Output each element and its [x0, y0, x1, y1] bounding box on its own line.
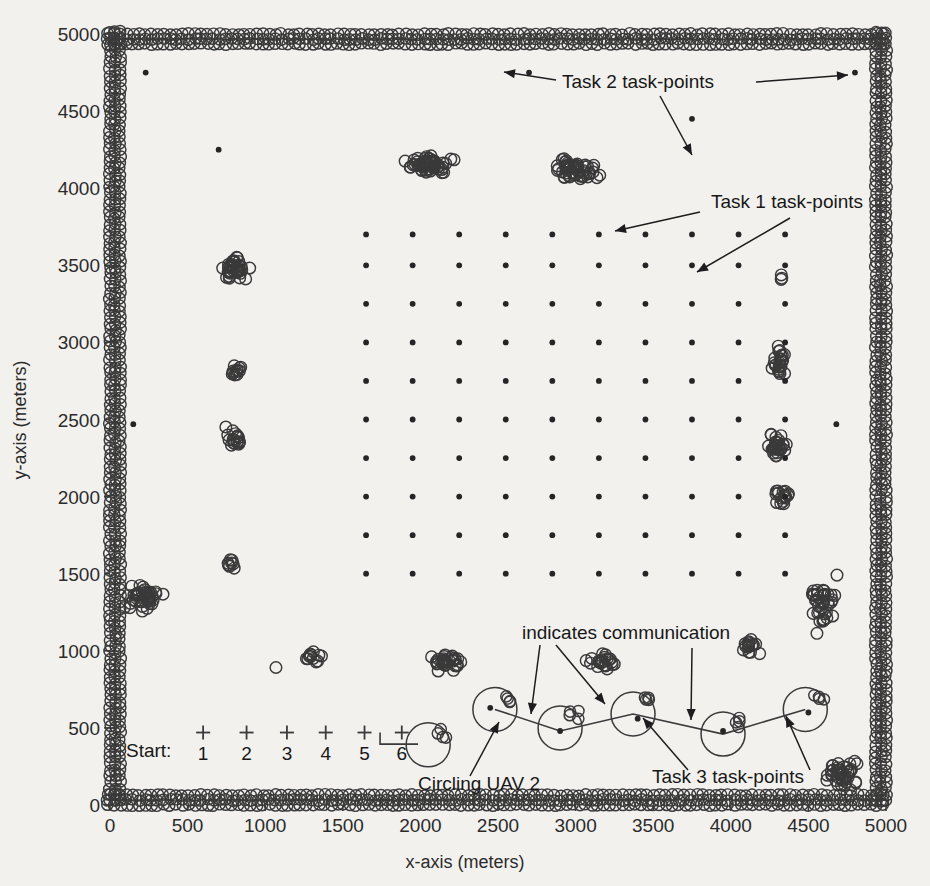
x-tick-label: 5000: [865, 815, 907, 836]
task1-point: [456, 571, 462, 577]
task2-point: [833, 421, 839, 427]
task1-point: [363, 301, 369, 307]
x-tick-label: 500: [172, 815, 204, 836]
x-axis-title: x-axis (meters): [405, 852, 524, 872]
task1-point: [549, 378, 555, 384]
task1-point: [596, 378, 602, 384]
x-tick-label: 1500: [322, 815, 364, 836]
task1-point: [736, 340, 742, 346]
task1-point: [549, 340, 555, 346]
task1-point: [456, 340, 462, 346]
task1-point: [456, 262, 462, 268]
task1-point: [410, 232, 416, 238]
x-tick-label: 3000: [554, 815, 596, 836]
scatter-plot-svg: 0500100015002000250030003500400045005000…: [0, 0, 930, 886]
task1-point: [736, 571, 742, 577]
task1-point: [363, 494, 369, 500]
start-number-label: 3: [282, 743, 293, 764]
y-tick-label: 1000: [58, 641, 100, 662]
task1-point: [782, 494, 788, 500]
task1-point: [782, 262, 788, 268]
start-number-label: 4: [320, 743, 331, 764]
y-axis-title: y-axis (meters): [10, 360, 30, 479]
task1-point: [363, 340, 369, 346]
task1-point: [596, 301, 602, 307]
task1-point: [549, 494, 555, 500]
task3-annotation-label: Task 3 task-points: [652, 766, 804, 787]
start-number-label: 1: [198, 743, 209, 764]
task1-point: [410, 455, 416, 461]
y-tick-label: 2500: [58, 410, 100, 431]
task1-point: [782, 340, 788, 346]
task1-point: [503, 340, 509, 346]
task3-point: [720, 728, 726, 734]
task1-point: [410, 571, 416, 577]
x-tick-label: 2500: [477, 815, 519, 836]
circling-uav-annotation-label: Circling UAV 2: [418, 773, 540, 794]
task1-point: [643, 340, 649, 346]
task1-point: [456, 455, 462, 461]
task1-point: [596, 455, 602, 461]
task1-point: [596, 532, 602, 538]
task1-point: [736, 455, 742, 461]
task1-point: [782, 417, 788, 423]
task1-point: [736, 532, 742, 538]
task1-point: [782, 301, 788, 307]
task1-point: [689, 494, 695, 500]
task1-point: [503, 455, 509, 461]
y-tick-label: 0: [89, 795, 100, 816]
task1-point: [503, 262, 509, 268]
task1-point: [643, 417, 649, 423]
task1-point: [549, 455, 555, 461]
task1-point: [782, 532, 788, 538]
task1-point: [410, 417, 416, 423]
y-tick-label: 4000: [58, 178, 100, 199]
task1-point: [363, 378, 369, 384]
task1-point: [782, 571, 788, 577]
task1-point: [503, 571, 509, 577]
y-tick-label: 3500: [58, 255, 100, 276]
y-tick-label: 3000: [58, 332, 100, 353]
task1-point: [689, 301, 695, 307]
task1-point: [503, 232, 509, 238]
y-tick-label: 5000: [58, 24, 100, 45]
task2-point: [689, 116, 695, 122]
task1-point: [643, 378, 649, 384]
task1-point: [736, 378, 742, 384]
task3-point: [487, 705, 493, 711]
task1-point: [503, 301, 509, 307]
task1-point: [596, 494, 602, 500]
task2-point: [526, 70, 532, 76]
task1-point: [456, 417, 462, 423]
task1-point: [736, 301, 742, 307]
task1-annotation-label: Task 1 task-points: [711, 191, 863, 212]
task1-point: [363, 571, 369, 577]
task1-point: [689, 532, 695, 538]
task1-point: [456, 378, 462, 384]
task1-point: [596, 417, 602, 423]
task1-point: [596, 262, 602, 268]
task1-point: [549, 417, 555, 423]
x-tick-label: 4000: [710, 815, 752, 836]
communication-annotation-label: indicates communication: [522, 622, 730, 643]
task1-point: [689, 340, 695, 346]
task1-point: [736, 262, 742, 268]
task1-point: [549, 571, 555, 577]
task1-point: [549, 532, 555, 538]
task1-point: [736, 417, 742, 423]
task1-point: [549, 232, 555, 238]
task1-point: [689, 262, 695, 268]
y-tick-label: 1500: [58, 564, 100, 585]
task1-point: [643, 494, 649, 500]
task1-point: [363, 532, 369, 538]
task3-point: [557, 728, 563, 734]
task1-point: [363, 417, 369, 423]
task1-point: [596, 232, 602, 238]
task1-point: [596, 340, 602, 346]
y-tick-label: 2000: [58, 487, 100, 508]
x-tick-label: 3500: [632, 815, 674, 836]
start-label: Start:: [126, 740, 171, 761]
task1-point: [782, 232, 788, 238]
task1-point: [503, 417, 509, 423]
task1-point: [736, 232, 742, 238]
